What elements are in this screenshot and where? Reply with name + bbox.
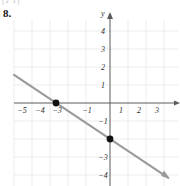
y-tick-label-2: 2	[98, 63, 108, 72]
coordinate-plane-figure: −5 −4 −3 −1 1 2 3 4 3 2 1 −1 −3 −4 y	[0, 0, 180, 186]
x-tick-label--1: −1	[79, 106, 95, 115]
y-tick-label--1: −1	[96, 117, 110, 126]
x-tick-label--4: −4	[32, 106, 48, 115]
point-y-intercept	[107, 136, 114, 143]
y-tick-label-1: 1	[98, 81, 108, 90]
y-axis-arrowhead	[107, 12, 113, 19]
graph-svg	[0, 0, 180, 186]
plotted-line	[14, 75, 168, 178]
x-tick-label-1: 1	[115, 106, 127, 115]
x-tick-label-2: 2	[133, 106, 145, 115]
y-tick-label-4: 4	[98, 27, 108, 36]
x-axis-arrowhead	[174, 101, 180, 106]
x-tick-label--3: −3	[49, 106, 65, 115]
y-axis-label: y	[101, 9, 105, 18]
x-tick-label--5: −5	[14, 106, 30, 115]
y-tick-label--4: −4	[96, 171, 110, 180]
y-tick-label--3: −3	[96, 153, 110, 162]
y-tick-label-3: 3	[98, 45, 108, 54]
x-tick-label-3: 3	[151, 106, 163, 115]
